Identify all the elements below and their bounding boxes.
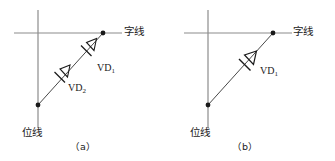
- component-label-vd1-a-text: VD: [97, 62, 111, 73]
- diode-vd1-a-triangle: [87, 39, 97, 51]
- panel-caption-a: （a）: [70, 142, 96, 152]
- diagonal-branch-a: [38, 33, 103, 105]
- component-label-vd1-b-sub: 1: [274, 70, 278, 78]
- component-label-vd2-a-sub: 2: [82, 87, 86, 95]
- bit-line-label-a: 位线: [22, 127, 43, 138]
- component-label-vd1-b-text: VD: [260, 65, 274, 76]
- diagram-panel-a: 字线 位线 VD1 VD2 （a）: [0, 0, 167, 161]
- component-label-vd1-b: VD1: [260, 66, 278, 76]
- word-line-node-a: [101, 31, 106, 36]
- diode-vd1-a: [81, 39, 97, 57]
- diagram-panel-b: 字线 位线 VD1 （b）: [168, 0, 335, 161]
- bit-line-node-a: [36, 103, 41, 108]
- word-line-node-b: [271, 31, 276, 36]
- figure-canvas: 字线 位线 VD1 VD2 （a） 字线 位线 VD1 （b）: [0, 0, 335, 161]
- word-line-label-b: 字线: [293, 26, 314, 37]
- diode-vd2-a: [55, 65, 71, 83]
- bit-line-node-b: [206, 103, 211, 108]
- component-label-vd1-a-sub: 1: [111, 67, 115, 75]
- component-label-vd1-a: VD1: [97, 63, 115, 73]
- component-label-vd2-a-text: VD: [68, 82, 82, 93]
- bit-line-label-b: 位线: [190, 127, 211, 138]
- panel-caption-b: （b）: [232, 142, 258, 152]
- component-label-vd2-a: VD2: [68, 83, 86, 93]
- word-line-label-a: 字线: [124, 26, 145, 37]
